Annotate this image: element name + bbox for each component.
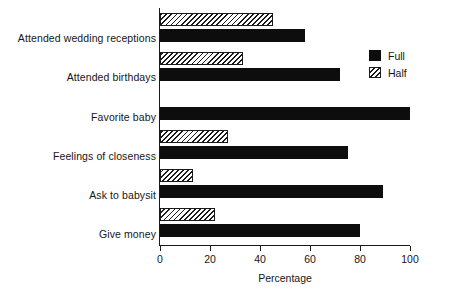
bar-chart: Attended wedding receptions Attended bir… — [0, 0, 450, 298]
bar-half-give-money — [160, 208, 215, 221]
legend-item-full: Full — [369, 47, 447, 64]
x-tick-label-80: 80 — [354, 253, 366, 265]
category-label-attended-wedding-receptions: Attended wedding receptions — [0, 33, 156, 44]
x-tick-0 — [160, 246, 161, 251]
x-tick-60 — [310, 246, 311, 251]
category-label-give-money: Give money — [0, 229, 156, 240]
bar-half-attended-wedding-receptions — [160, 13, 273, 26]
legend-item-half: Half — [369, 64, 447, 81]
bar-full-ask-to-babysit — [160, 185, 383, 198]
bar-full-favorite-baby — [160, 107, 410, 120]
x-tick-20 — [210, 246, 211, 251]
legend-swatch-full-icon — [369, 50, 381, 61]
x-tick-100 — [410, 246, 411, 251]
bar-half-feelings-of-closeness — [160, 130, 228, 143]
bar-full-attended-wedding-receptions — [160, 29, 305, 42]
x-tick-40 — [260, 246, 261, 251]
legend-swatch-half-icon — [369, 67, 381, 78]
x-tick-label-20: 20 — [204, 253, 216, 265]
x-tick-label-40: 40 — [254, 253, 266, 265]
category-label-attended-birthdays: Attended birthdays — [0, 72, 156, 83]
category-axis-labels: Attended wedding receptions Attended bir… — [0, 0, 156, 245]
plot-area: 020406080100 — [160, 8, 410, 245]
x-axis-title: Percentage — [160, 272, 410, 284]
category-label-favorite-baby: Favorite baby — [0, 112, 156, 123]
bar-half-ask-to-babysit — [160, 169, 193, 182]
legend: Full Half — [369, 47, 447, 81]
x-tick-label-0: 0 — [157, 253, 163, 265]
category-label-feelings-of-closeness: Feelings of closeness — [0, 151, 156, 162]
legend-label-half: Half — [388, 67, 407, 79]
legend-label-full: Full — [388, 50, 405, 62]
bar-full-attended-birthdays — [160, 68, 340, 81]
x-tick-label-60: 60 — [304, 253, 316, 265]
x-tick-80 — [360, 246, 361, 251]
category-label-ask-to-babysit: Ask to babysit — [0, 190, 156, 201]
x-axis-line — [159, 245, 410, 246]
x-tick-label-100: 100 — [401, 253, 419, 265]
bar-half-attended-birthdays — [160, 52, 243, 65]
bar-full-feelings-of-closeness — [160, 146, 348, 159]
bar-full-give-money — [160, 224, 360, 237]
